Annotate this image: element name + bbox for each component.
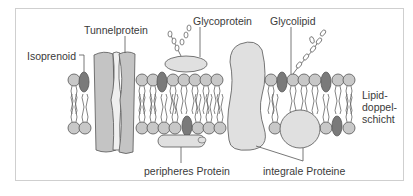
glycoprotein: [165, 25, 207, 72]
label-peripheral-protein: peripheres Protein: [144, 165, 230, 177]
label-glycolipid: Glycolipid: [270, 15, 316, 27]
integral-protein-round: [280, 110, 320, 148]
label-lipid-bilayer-2: doppel-: [362, 101, 397, 113]
integral-protein-large: [228, 42, 266, 150]
label-tunnelprotein: Tunnelprotein: [84, 24, 148, 36]
tunnel-protein: [94, 52, 135, 154]
glycolipid-chain: [293, 29, 327, 74]
label-integral-proteins: integrale Proteine: [263, 165, 345, 177]
label-isoprenoid: Isoprenoid: [27, 50, 76, 62]
label-lipid-bilayer-3: schicht: [362, 113, 395, 125]
label-glycoprotein: Glycoprotein: [193, 15, 252, 27]
label-lipid-bilayer-1: Lipid-: [362, 89, 388, 101]
